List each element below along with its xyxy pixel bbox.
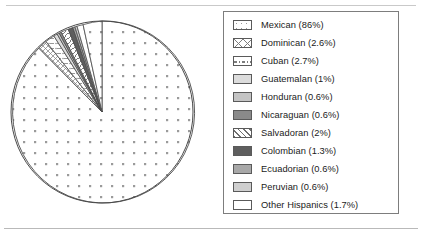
legend-label-ecuadorian: Ecuadorian (0.6%) [261,164,339,174]
swatch-other-hispanics [233,200,252,210]
swatch-honduran [233,92,252,102]
legend-item-ecuadorian: Ecuadorian (0.6%) [224,160,398,178]
bottom-divider [4,228,418,229]
swatch-dominican [233,38,252,48]
swatch-cuban [233,56,252,66]
legend-item-honduran: Honduran (0.6%) [224,88,398,106]
legend-label-peruvian: Peruvian (0.6%) [261,182,328,192]
pie-chart-plot [8,16,200,212]
legend-label-other-hispanics: Other Hispanics (1.7%) [261,200,358,210]
chart-legend: Mexican (86%) Dominican (2.6%) Cuban (2.… [223,11,399,214]
legend-item-nicaraguan: Nicaraguan (0.6%) [224,106,398,124]
legend-label-mexican: Mexican (86%) [261,20,324,30]
legend-item-cuban: Cuban (2.7%) [224,52,398,70]
swatch-guatemalan [233,74,252,84]
swatch-nicaraguan [233,110,252,120]
legend-item-salvadoran: Salvadoran (2%) [224,124,398,142]
swatch-colombian [233,146,252,156]
legend-item-other-hispanics: Other Hispanics (1.7%) [224,196,398,214]
legend-label-salvadoran: Salvadoran (2%) [261,128,331,138]
swatch-peruvian [233,182,252,192]
legend-label-nicaraguan: Nicaraguan (0.6%) [261,110,339,120]
legend-item-peruvian: Peruvian (0.6%) [224,178,398,196]
swatch-salvadoran [233,128,252,138]
legend-label-guatemalan: Guatemalan (1%) [261,74,335,84]
legend-item-guatemalan: Guatemalan (1%) [224,70,398,88]
legend-label-honduran: Honduran (0.6%) [261,92,333,102]
swatch-ecuadorian [233,164,252,174]
legend-item-mexican: Mexican (86%) [224,16,398,34]
legend-label-cuban: Cuban (2.7%) [261,56,319,66]
legend-item-dominican: Dominican (2.6%) [224,34,398,52]
legend-label-dominican: Dominican (2.6%) [261,38,336,48]
pie-chart-figure: Mexican (86%) Dominican (2.6%) Cuban (2.… [0,0,422,239]
top-divider [6,5,416,6]
legend-label-colombian: Colombian (1.3%) [261,146,336,156]
pie-svg [8,16,200,212]
legend-item-colombian: Colombian (1.3%) [224,142,398,160]
swatch-mexican [233,20,252,30]
